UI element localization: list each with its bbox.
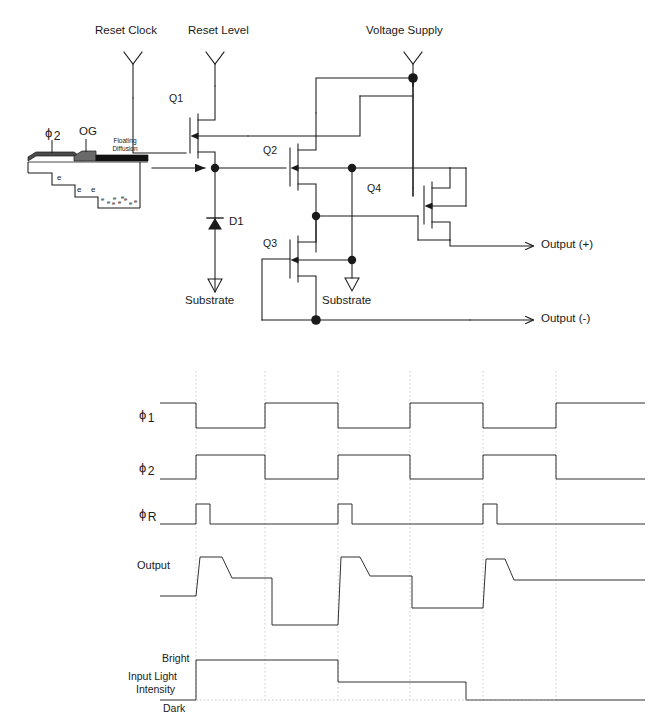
waveform-phi1 (160, 403, 645, 428)
phi-sub-r: R (146, 510, 156, 524)
wire-output-positive (450, 240, 533, 246)
phi-sub-ccd: 2 (52, 129, 60, 143)
timing-gridlines (196, 371, 556, 700)
terminal-reset-level-symbol (206, 52, 224, 86)
output-label-negative: Output (-) (541, 312, 590, 324)
terminal-label-voltage-supply: Voltage Supply (366, 24, 443, 36)
electron-symbol: e (112, 200, 115, 206)
light-level-label-bright: Bright (162, 653, 189, 664)
ccd-gate-og-plate (74, 151, 96, 161)
figure-root: Reset Clock Reset Level Voltage Supply Q… (0, 0, 661, 728)
ccd-gate-label-og: OG (79, 125, 97, 137)
phi-sub-1: 1 (146, 411, 154, 425)
electron-symbol: e (107, 199, 110, 205)
transistor-label-q3: Q3 (263, 238, 277, 249)
transistor-q1 (190, 86, 248, 168)
output-label-positive: Output (+) (541, 238, 593, 250)
diode-d1 (207, 218, 223, 229)
ccd-floating-diffusion-plate (96, 155, 148, 161)
terminal-label-reset-level: Reset Level (188, 24, 249, 36)
transistor-label-q1: Q1 (169, 93, 183, 104)
terminal-label-reset-clock: Reset Clock (95, 24, 157, 36)
timing-label-phir: ϕR (139, 505, 157, 524)
wire-q1-gatebias (248, 96, 360, 136)
light-label-line2: Intensity (136, 684, 175, 695)
waveform-output (160, 557, 645, 625)
transistor-q4 (424, 168, 466, 240)
circuit-schematic (0, 0, 661, 728)
diode-label-d1: D1 (229, 215, 244, 227)
wire-q3-gate-loop (262, 259, 290, 320)
light-label-line1: Input Light (128, 671, 177, 682)
electron-symbol: e (121, 194, 124, 200)
electron-symbol: e (77, 186, 81, 194)
transistor-q2 (290, 113, 352, 216)
transistor-label-q2: Q2 (263, 145, 277, 156)
terminal-reset-clock-symbol (124, 52, 142, 98)
light-level-label-dark: Dark (163, 703, 185, 714)
ccd-label-floating-diffusion-line1: Floating (99, 138, 151, 145)
electron-symbol: e (101, 196, 104, 202)
waveform-phi2 (160, 455, 645, 479)
electron-symbol: e (57, 174, 61, 182)
ccd-gate-label-phi2: ϕ2 (45, 124, 61, 143)
electron-symbol: e (124, 196, 127, 202)
ground-substrate-right (345, 278, 359, 291)
ccd-label-floating-diffusion-line2: Diffusion (99, 146, 151, 153)
timing-label-phi1: ϕ1 (139, 406, 155, 425)
timing-label-phi2: ϕ2 (139, 459, 155, 478)
ground-label-substrate-right: Substrate (322, 294, 371, 306)
waveform-input-light (160, 660, 645, 700)
phi-sub-2: 2 (146, 464, 154, 478)
transistor-label-q4: Q4 (367, 183, 381, 194)
node-output-negative (311, 315, 321, 325)
electron-symbol: e (134, 198, 137, 204)
ground-label-substrate-left: Substrate (185, 294, 234, 306)
waveform-phir (160, 504, 645, 524)
electron-symbol: e (129, 200, 132, 206)
timing-diagram (160, 371, 645, 700)
electron-symbol: e (91, 186, 95, 194)
timing-label-output: Output (137, 560, 170, 572)
